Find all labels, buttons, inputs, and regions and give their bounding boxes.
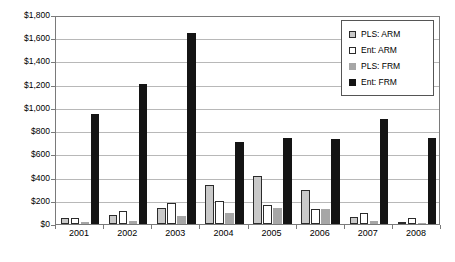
legend-swatch-icon [349,31,356,38]
y-axis-tick-label: $600 [0,150,50,159]
x-axis-tick-mark [440,225,441,229]
x-axis-tick-label: 2004 [199,228,247,239]
y-axis-tick-label: $1,200 [0,81,50,90]
y-axis-tick-label: $800 [0,127,50,136]
y-axis-tick-label: $1,800 [0,11,50,20]
legend-swatch-icon [349,47,356,54]
y-axis-tick-mark [51,62,55,63]
x-axis-tick-label: 2005 [248,228,296,239]
legend-item: Ent: FRM [349,74,433,90]
y-axis-tick-label: $0 [0,220,50,229]
y-axis-tick-mark [51,86,55,87]
legend-swatch-icon [349,63,356,70]
x-axis-tick-label: 2008 [392,228,440,239]
x-axis-tick-label: 2001 [55,228,103,239]
y-axis-tick-mark [51,132,55,133]
y-axis-tick-label: $1,600 [0,34,50,43]
x-axis-tick-label: 2006 [296,228,344,239]
y-axis-tick-label: $200 [0,197,50,206]
legend-item-label: PLS: FRM [361,62,400,71]
x-axis-tick-label: 2002 [103,228,151,239]
legend-item: Ent: ARM [349,42,433,58]
legend-item-label: Ent: FRM [361,78,397,87]
legend-item: PLS: ARM [349,26,433,42]
y-axis-tick-mark [51,39,55,40]
x-axis: 20012002200320042005200620072008 [55,228,440,244]
bar-chart: $0$200$400$600$800$1,000$1,200$1,400$1,6… [0,0,455,262]
y-axis-tick-mark [51,202,55,203]
y-axis-tick-label: $1,000 [0,104,50,113]
legend-swatch-icon [349,79,356,86]
chart-legend: PLS: ARMEnt: ARMPLS: FRMEnt: FRM [341,20,434,96]
y-axis-tick-mark [51,16,55,17]
x-axis-tick-label: 2007 [344,228,392,239]
legend-item: PLS: FRM [349,58,433,74]
x-axis-tick-label: 2003 [151,228,199,239]
y-axis-tick-mark [51,109,55,110]
legend-item-label: Ent: ARM [361,46,397,55]
legend-item-label: PLS: ARM [361,30,400,39]
y-axis-tick-label: $1,400 [0,57,50,66]
y-axis-tick-mark [51,155,55,156]
y-axis-tick-label: $400 [0,174,50,183]
y-axis-tick-mark [51,179,55,180]
